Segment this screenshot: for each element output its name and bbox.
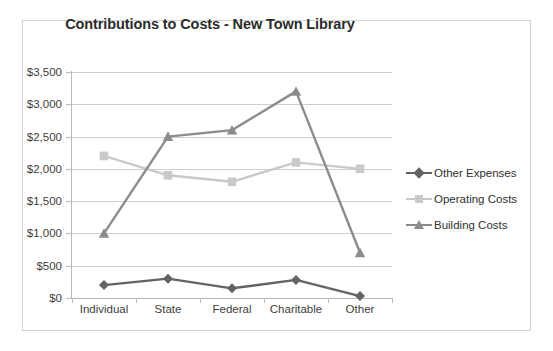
legend-marker-diamond-icon bbox=[406, 166, 432, 180]
x-axis-category-label: Individual bbox=[80, 303, 129, 315]
gridline bbox=[72, 266, 392, 267]
gridline bbox=[72, 72, 392, 73]
y-axis-tick-label: $2,000 bbox=[4, 163, 62, 175]
y-axis-line bbox=[71, 71, 72, 299]
gridline bbox=[72, 137, 392, 138]
y-axis-tick-label: $1,000 bbox=[4, 227, 62, 239]
x-axis-category-label: Other bbox=[346, 303, 375, 315]
legend-label: Other Expenses bbox=[434, 167, 516, 179]
chart-title: Contributions to Costs - New Town Librar… bbox=[0, 16, 420, 32]
x-axis-line bbox=[71, 298, 393, 299]
gridline bbox=[72, 169, 392, 170]
y-axis-tick-label: $0 bbox=[4, 292, 62, 304]
legend-label: Building Costs bbox=[434, 219, 508, 231]
legend-item-operating-costs[interactable]: Operating Costs bbox=[406, 186, 530, 212]
y-axis-tick-label: $1,500 bbox=[4, 195, 62, 207]
legend-item-building-costs[interactable]: Building Costs bbox=[406, 212, 530, 238]
legend-marker-square-icon bbox=[406, 192, 432, 206]
legend-item-other-expenses[interactable]: Other Expenses bbox=[406, 160, 530, 186]
x-axis-category-label: State bbox=[155, 303, 182, 315]
y-axis-tick-label: $2,500 bbox=[4, 131, 62, 143]
y-axis-tick-label: $3,000 bbox=[4, 98, 62, 110]
y-axis-tick-label: $3,500 bbox=[4, 66, 62, 78]
x-axis-category-label: Federal bbox=[213, 303, 252, 315]
chart-legend: Other ExpensesOperating CostsBuilding Co… bbox=[406, 160, 530, 238]
y-axis-tick-label: $500 bbox=[4, 260, 62, 272]
legend-label: Operating Costs bbox=[434, 193, 517, 205]
x-axis-category-label: Charitable bbox=[270, 303, 322, 315]
gridline bbox=[72, 233, 392, 234]
gridline bbox=[72, 201, 392, 202]
gridline bbox=[72, 104, 392, 105]
legend-marker-triangle-icon bbox=[406, 218, 432, 232]
